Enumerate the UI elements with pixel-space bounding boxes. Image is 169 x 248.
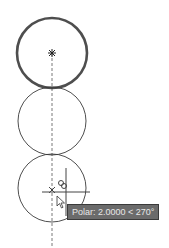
center-snap-marker-icon [48, 49, 56, 57]
arrow-pointer-icon [57, 196, 65, 208]
snap-link-icon [59, 181, 67, 189]
polar-tracking-tooltip: Polar: 2.0000 < 270° [67, 204, 159, 220]
